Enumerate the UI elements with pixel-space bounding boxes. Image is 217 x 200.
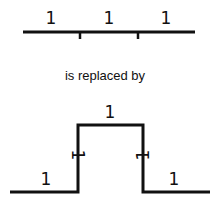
segment-label-1: 1 <box>46 8 57 28</box>
down-segment-label: 1 <box>133 150 153 161</box>
segment-label-2: 1 <box>104 8 115 28</box>
segment-label-3: 1 <box>161 8 172 28</box>
up-segment-label: 1 <box>68 150 88 161</box>
right-segment-label: 1 <box>169 169 180 189</box>
top-segment-label: 1 <box>105 102 116 122</box>
original-line: 1 1 1 <box>23 8 195 39</box>
left-segment-label: 1 <box>41 169 52 189</box>
replacement-curve: 1 1 1 1 1 <box>10 102 210 192</box>
koch-replacement-diagram: 1 1 1 is replaced by 1 1 1 1 1 <box>0 0 217 200</box>
caption: is replaced by <box>65 68 146 83</box>
